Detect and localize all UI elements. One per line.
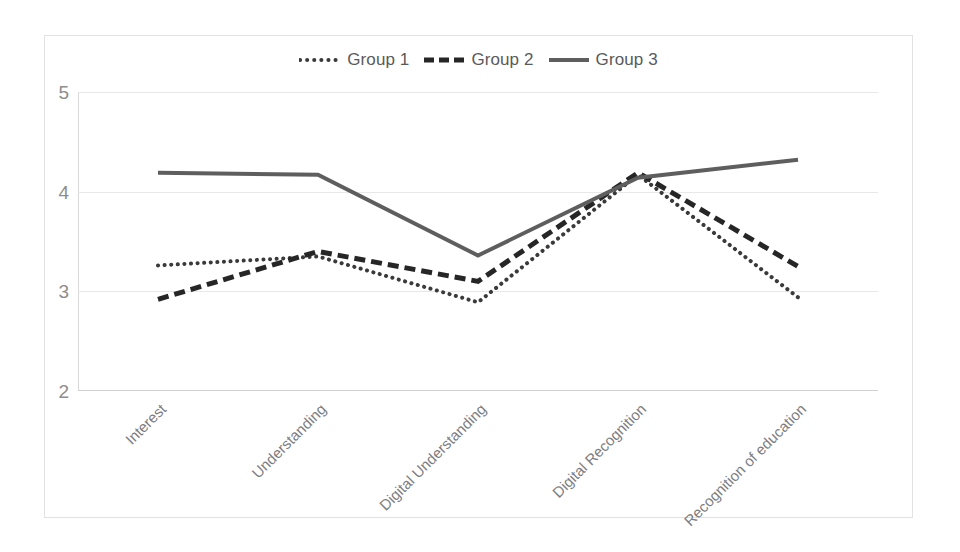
legend-label-group-3: Group 3 — [596, 50, 658, 70]
x-tick-label: Digital Recognition — [550, 401, 649, 500]
dotted-line-swatch-icon — [299, 54, 341, 66]
legend-item-group-1: Group 1 — [299, 50, 409, 70]
x-tick-label: Interest — [123, 401, 169, 447]
x-tick-label: Understanding — [249, 401, 329, 481]
dashed-line-swatch-icon — [423, 54, 465, 66]
series-line-group-2 — [158, 173, 798, 300]
y-tick-label: 5 — [58, 83, 69, 102]
chart-figure: Group 1 Group 2 Group 3 2345 InterestUnd… — [44, 35, 913, 518]
legend-item-group-3: Group 3 — [548, 50, 658, 70]
legend-item-group-2: Group 2 — [423, 50, 533, 70]
x-tick-label: Recognition of education — [681, 401, 808, 528]
x-tick-label: Digital Understanding — [377, 401, 489, 513]
y-tick-label: 3 — [58, 282, 69, 301]
solid-line-swatch-icon — [548, 54, 590, 66]
plot-area: 2345 InterestUnderstandingDigital Unders… — [78, 92, 878, 391]
series-lines — [78, 92, 878, 391]
chart-legend: Group 1 Group 2 Group 3 — [45, 50, 912, 70]
y-tick-label: 2 — [58, 382, 69, 401]
legend-label-group-2: Group 2 — [471, 50, 533, 70]
y-tick-label: 4 — [58, 182, 69, 201]
legend-label-group-1: Group 1 — [347, 50, 409, 70]
